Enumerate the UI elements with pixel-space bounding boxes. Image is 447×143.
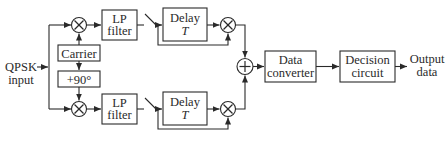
bottom-mixer-to-adder — [236, 76, 246, 110]
data-converter-line1: Data — [279, 53, 303, 67]
top-mixer-to-adder — [236, 25, 246, 58]
sampling-switch-icon — [145, 98, 156, 109]
input-label-line1: QPSK — [5, 60, 37, 74]
lp-filter-bottom-line2: filter — [107, 108, 132, 122]
input-label-line2: input — [8, 73, 34, 87]
delay-bottom-line1: Delay — [170, 95, 201, 109]
output-label-line2: data — [417, 65, 438, 79]
multiplier-icon — [72, 102, 87, 117]
carrier-label: Carrier — [61, 47, 97, 61]
phase-shift-label: +90° — [67, 73, 92, 87]
qpsk-demodulator-diagram: QPSK input Carrier +90° LP filter LP fil… — [0, 0, 447, 143]
decision-circuit-line2: circuit — [352, 66, 384, 80]
multiplier-icon — [72, 18, 87, 33]
sampling-switch-icon — [145, 14, 156, 25]
delay-bottom-line2: T — [182, 108, 190, 122]
delay-top-line2: T — [182, 24, 190, 38]
decision-circuit-line1: Decision — [345, 53, 390, 67]
lp-filter-top-line2: filter — [107, 24, 132, 38]
multiplier-icon — [221, 102, 236, 117]
output-label-line1: Output — [410, 52, 445, 66]
multiplier-icon — [221, 18, 236, 33]
adder-icon — [237, 59, 253, 75]
data-converter-line2: converter — [267, 66, 315, 80]
delay-top-line1: Delay — [170, 11, 201, 25]
